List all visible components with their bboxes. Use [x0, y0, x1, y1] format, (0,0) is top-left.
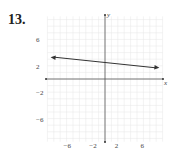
svg-text:6: 6 [140, 142, 144, 150]
y-axis-label: y [106, 11, 111, 19]
svg-text:−6: −6 [36, 116, 44, 124]
svg-text:−2: −2 [89, 142, 97, 150]
svg-text:6: 6 [36, 36, 40, 44]
svg-text:2: 2 [115, 142, 119, 150]
svg-text:−2: −2 [36, 89, 44, 97]
y-tick-labels: 62−2−6 [36, 36, 44, 123]
coordinate-plane: x y −6−226 62−2−6 [0, 0, 175, 150]
x-axis-label: x [163, 79, 168, 87]
x-tick-labels: −6−226 [64, 142, 145, 150]
svg-text:2: 2 [36, 63, 40, 71]
svg-text:−6: −6 [64, 142, 72, 150]
